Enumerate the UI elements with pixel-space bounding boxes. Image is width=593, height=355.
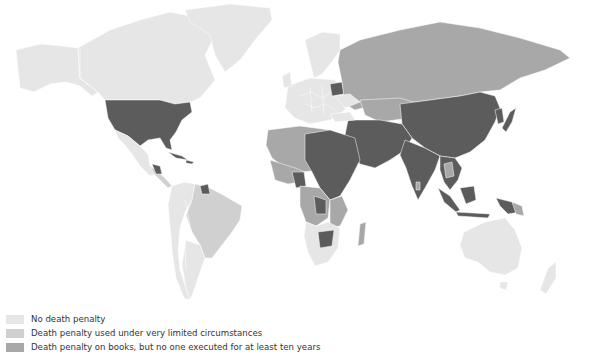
legend-label: Death penalty on books, but no one execu…: [31, 342, 320, 352]
region-canada: [78, 12, 215, 104]
map-legend: No death penalty Death penalty used unde…: [6, 312, 320, 354]
region-new-zealand: [540, 262, 556, 294]
region-east-africa: [330, 196, 348, 228]
legend-item-no-death-penalty: No death penalty: [6, 312, 320, 326]
region-uk: [282, 72, 292, 88]
legend-item-on-books: Death penalty on books, but no one execu…: [6, 340, 320, 354]
region-korea: [495, 108, 504, 124]
region-usa: [105, 100, 192, 150]
legend-swatch: [6, 343, 24, 352]
legend-swatch: [6, 315, 24, 324]
region-nigeria: [292, 172, 306, 188]
region-zimbabwe-botswana: [318, 230, 334, 248]
region-guyana-suriname: [200, 184, 210, 194]
region-turkey: [330, 112, 355, 122]
region-caribbean: [186, 160, 194, 164]
region-madagascar: [358, 222, 366, 246]
region-sri-lanka: [416, 182, 420, 190]
region-belarus: [330, 82, 344, 96]
world-map: [0, 0, 593, 310]
region-borneo: [460, 186, 476, 204]
region-japan: [502, 108, 516, 132]
legend-label: Death penalty used under very limited ci…: [31, 328, 262, 338]
region-scandinavia: [305, 32, 340, 78]
legend-label: No death penalty: [31, 314, 105, 324]
region-thailand-laos: [444, 162, 454, 178]
legend-item-limited-circumstances: Death penalty used under very limited ci…: [6, 326, 320, 340]
legend-swatch: [6, 329, 24, 338]
region-cuba: [168, 152, 188, 160]
region-sumatra: [438, 188, 460, 212]
region-java-islands: [456, 212, 490, 218]
region-tasmania: [500, 282, 508, 290]
region-australia: [460, 218, 522, 275]
